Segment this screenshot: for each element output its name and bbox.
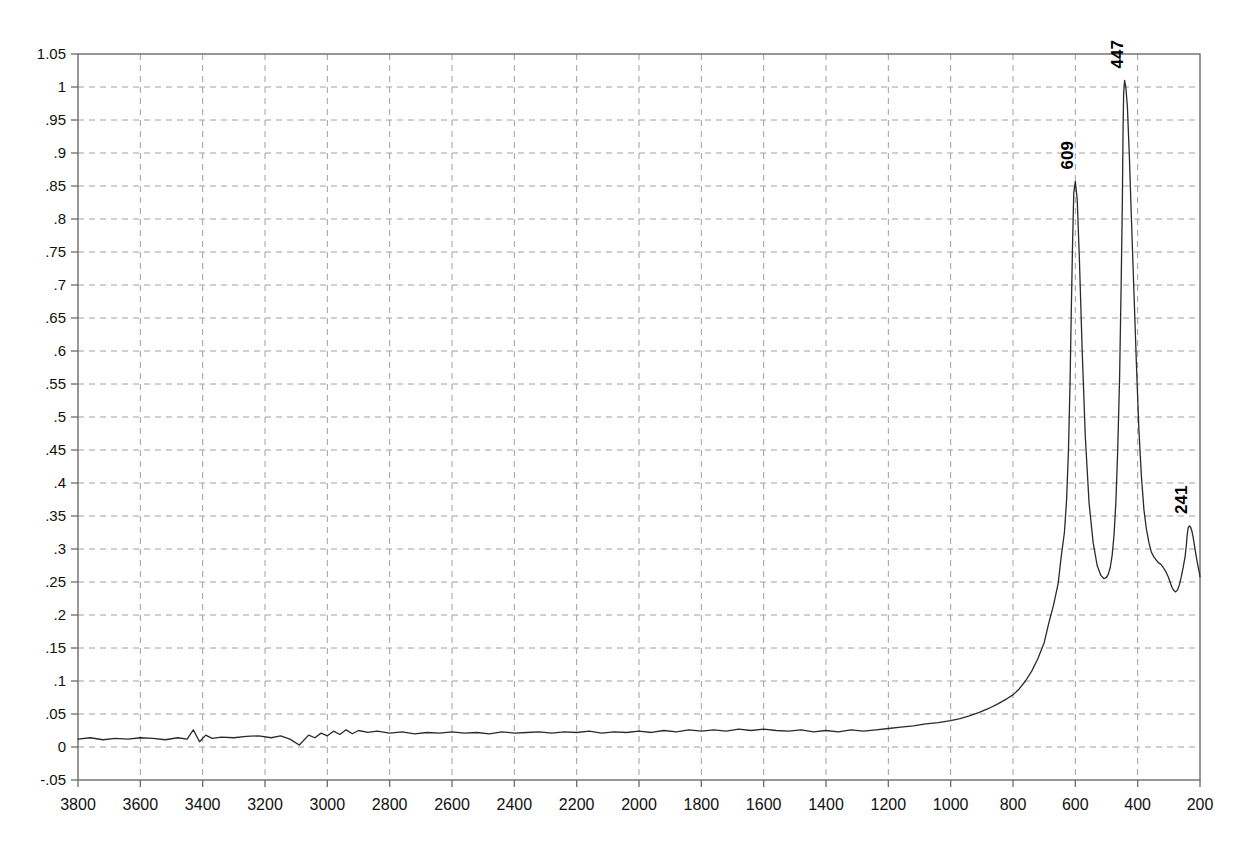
svg-text:1000: 1000 (933, 796, 969, 813)
peak-annotations: 609447241 (1058, 40, 1192, 514)
svg-text:241: 241 (1172, 486, 1191, 514)
svg-text:.75: .75 (45, 243, 66, 260)
svg-text:.85: .85 (45, 177, 66, 194)
svg-text:.35: .35 (45, 507, 66, 524)
svg-text:0: 0 (58, 738, 66, 755)
svg-text:3000: 3000 (310, 796, 346, 813)
svg-text:.5: .5 (53, 408, 66, 425)
svg-text:609: 609 (1058, 141, 1077, 169)
svg-text:.6: .6 (53, 342, 66, 359)
svg-text:2000: 2000 (621, 796, 657, 813)
svg-text:1800: 1800 (684, 796, 720, 813)
svg-text:.4: .4 (53, 474, 66, 491)
svg-text:.45: .45 (45, 441, 66, 458)
svg-text:400: 400 (1124, 796, 1151, 813)
svg-text:1200: 1200 (871, 796, 907, 813)
plot-area: 1.051.95.9.85.8.75.7.65.6.55.5.45.4.35.3… (0, 0, 1250, 841)
svg-text:1.05: 1.05 (37, 45, 66, 62)
svg-text:2200: 2200 (559, 796, 595, 813)
svg-text:.3: .3 (53, 540, 66, 557)
svg-text:.9: .9 (53, 144, 66, 161)
spectrum-chart: 1.051.95.9.85.8.75.7.65.6.55.5.45.4.35.3… (0, 0, 1250, 841)
svg-text:.15: .15 (45, 639, 66, 656)
svg-text:.05: .05 (45, 705, 66, 722)
svg-text:.95: .95 (45, 111, 66, 128)
svg-text:1: 1 (58, 78, 66, 95)
svg-text:.25: .25 (45, 573, 66, 590)
svg-text:.55: .55 (45, 375, 66, 392)
svg-text:3400: 3400 (185, 796, 221, 813)
svg-text:3600: 3600 (123, 796, 159, 813)
svg-text:-.05: -.05 (40, 771, 66, 788)
svg-text:.65: .65 (45, 309, 66, 326)
svg-text:.7: .7 (53, 276, 66, 293)
x-axis-ticks: 3800360034003200300028002600240022002000… (60, 780, 1213, 813)
svg-text:200: 200 (1187, 796, 1214, 813)
svg-text:447: 447 (1108, 40, 1127, 68)
svg-text:.2: .2 (53, 606, 66, 623)
svg-text:2400: 2400 (497, 796, 533, 813)
svg-text:2800: 2800 (372, 796, 408, 813)
svg-text:1400: 1400 (808, 796, 844, 813)
svg-text:1600: 1600 (746, 796, 782, 813)
svg-text:3200: 3200 (247, 796, 283, 813)
y-axis-ticks: 1.051.95.9.85.8.75.7.65.6.55.5.45.4.35.3… (37, 45, 78, 788)
svg-text:3800: 3800 (60, 796, 96, 813)
svg-text:.1: .1 (53, 672, 66, 689)
svg-text:800: 800 (1000, 796, 1027, 813)
svg-text:.8: .8 (53, 210, 66, 227)
svg-text:600: 600 (1062, 796, 1089, 813)
svg-text:2600: 2600 (434, 796, 470, 813)
